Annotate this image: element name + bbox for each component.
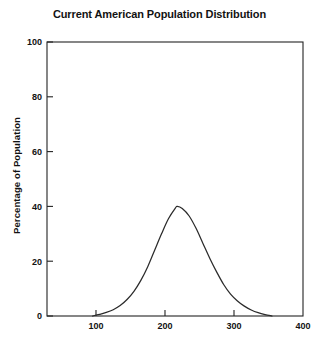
x-tick-label: 100 [88, 321, 103, 331]
distribution-curve [93, 206, 272, 316]
y-tick-group: 020406080100 [27, 37, 53, 321]
x-tick-label: 200 [157, 321, 172, 331]
plot-border [47, 42, 303, 316]
data-curve-group [93, 206, 272, 316]
y-tick-label: 20 [32, 257, 42, 267]
y-tick-label: 80 [32, 92, 42, 102]
chart-figure: Current American Population Distribution… [0, 0, 319, 338]
x-tick-group: 100200300400 [88, 310, 310, 331]
plot-area: 020406080100 100200300400 [0, 0, 319, 338]
y-tick-label: 40 [32, 202, 42, 212]
y-tick-label: 60 [32, 147, 42, 157]
axis-frame [47, 42, 303, 316]
x-tick-label: 400 [295, 321, 310, 331]
x-tick-label: 300 [226, 321, 241, 331]
y-tick-label: 0 [37, 311, 42, 321]
y-tick-label: 100 [27, 37, 42, 47]
